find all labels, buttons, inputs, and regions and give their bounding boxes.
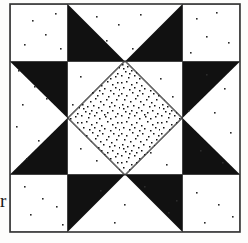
corner-square-bottom-left [10,175,68,233]
stray-letter-r: r [0,190,12,214]
quilt-block-figure [0,0,248,243]
corner-square-top-left [10,4,68,62]
figure-page: r [0,0,248,243]
corner-square-bottom-right [183,175,241,233]
